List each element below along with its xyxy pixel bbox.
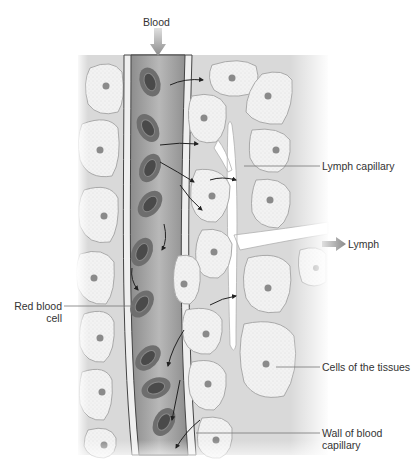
label-wall-line2: capillary (322, 439, 382, 451)
fade-bottom (76, 440, 336, 465)
fade-right (290, 55, 330, 465)
label-lymph: Lymph (348, 238, 379, 250)
label-lymph-capillary: Lymph capillary (322, 160, 395, 172)
blood-inflow-arrow-icon (150, 28, 166, 56)
fade-left (76, 55, 88, 465)
label-wall-line1: Wall of blood (322, 427, 382, 439)
lymph-formation-diagram (0, 0, 420, 465)
label-red-blood-cell-line1: Red blood (10, 300, 62, 312)
label-wall-of-blood-capillary: Wall of blood capillary (322, 427, 382, 451)
label-blood: Blood (143, 16, 170, 28)
label-cells-of-tissues: Cells of the tissues (322, 361, 410, 373)
label-red-blood-cell: Red blood cell (10, 300, 62, 324)
label-red-blood-cell-line2: cell (10, 312, 62, 324)
